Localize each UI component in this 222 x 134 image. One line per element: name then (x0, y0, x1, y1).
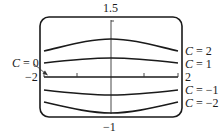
c-variable: C (185, 96, 193, 110)
c-value: = 0 (20, 56, 39, 70)
ymin-label: −1 (103, 121, 116, 133)
legend-c-1: C = 1 (185, 58, 212, 70)
xmax-label: 2 (185, 71, 191, 83)
c-variable: C (12, 56, 20, 70)
c-value: = −1 (193, 83, 219, 97)
ymax-label: 1.5 (103, 2, 118, 14)
c-variable: C (185, 44, 193, 58)
legend-c-minus-2: C = −2 (185, 97, 219, 109)
c-value: = −2 (193, 96, 219, 110)
c-value: = 2 (193, 44, 212, 58)
c-value: = 1 (193, 57, 212, 71)
xmin-label: −2 (25, 71, 38, 83)
c0-arrow-head (43, 71, 49, 76)
c-variable: C (185, 57, 193, 71)
c-variable: C (185, 83, 193, 97)
legend-c-2: C = 2 (185, 45, 212, 57)
annotation-c-0: C = 0 (12, 57, 39, 69)
legend-c-minus-1: C = −1 (185, 84, 219, 96)
